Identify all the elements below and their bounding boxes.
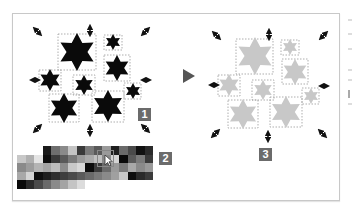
- color-swatch[interactable]: [43, 146, 52, 155]
- color-swatch[interactable]: [26, 180, 35, 189]
- color-swatch[interactable]: [68, 155, 77, 164]
- color-swatch[interactable]: [34, 172, 43, 181]
- color-swatch[interactable]: [136, 155, 145, 164]
- color-swatch[interactable]: [60, 163, 69, 172]
- color-swatch[interactable]: [51, 180, 60, 189]
- color-swatch-grid[interactable]: [17, 146, 153, 189]
- play-arrow-icon: [183, 69, 195, 83]
- color-swatch[interactable]: [128, 146, 137, 155]
- mouse-cursor-icon: [104, 154, 114, 167]
- color-swatch[interactable]: [77, 180, 86, 189]
- color-swatch[interactable]: [34, 155, 43, 164]
- empty-swatch-slot: [85, 180, 94, 189]
- color-swatch[interactable]: [111, 172, 120, 181]
- color-swatch[interactable]: [94, 172, 103, 181]
- color-swatch[interactable]: [26, 172, 35, 181]
- color-swatch[interactable]: [128, 172, 137, 181]
- color-swatch[interactable]: [145, 163, 154, 172]
- color-swatch[interactable]: [102, 172, 111, 181]
- gray-star-group[interactable]: [211, 31, 327, 140]
- empty-swatch-slot: [102, 180, 111, 189]
- empty-swatch-slot: [145, 180, 154, 189]
- empty-swatch-slot: [136, 180, 145, 189]
- color-swatch[interactable]: [85, 146, 94, 155]
- empty-swatch-slot: [111, 180, 120, 189]
- color-swatch[interactable]: [68, 146, 77, 155]
- color-swatch[interactable]: [77, 163, 86, 172]
- color-swatch[interactable]: [136, 163, 145, 172]
- empty-swatch-slot: [17, 146, 26, 155]
- color-swatch[interactable]: [17, 163, 26, 172]
- color-swatch[interactable]: [136, 172, 145, 181]
- step-badge-1: 1: [138, 108, 151, 121]
- color-swatch[interactable]: [68, 172, 77, 181]
- color-swatch[interactable]: [51, 155, 60, 164]
- color-swatch[interactable]: [119, 146, 128, 155]
- step-badge-2: 2: [159, 152, 172, 165]
- color-swatch[interactable]: [77, 155, 86, 164]
- color-swatch[interactable]: [128, 155, 137, 164]
- color-swatch[interactable]: [77, 172, 86, 181]
- color-swatch[interactable]: [145, 172, 154, 181]
- color-swatch[interactable]: [51, 172, 60, 181]
- color-swatch[interactable]: [60, 180, 69, 189]
- empty-swatch-slot: [94, 180, 103, 189]
- step-badge-3: 3: [259, 148, 272, 161]
- empty-swatch-slot: [128, 180, 137, 189]
- color-swatch[interactable]: [51, 146, 60, 155]
- color-swatch[interactable]: [26, 155, 35, 164]
- color-swatch[interactable]: [128, 163, 137, 172]
- color-swatch[interactable]: [119, 172, 128, 181]
- color-swatch[interactable]: [43, 155, 52, 164]
- color-swatch[interactable]: [43, 172, 52, 181]
- star-shape: [60, 33, 93, 71]
- color-swatch[interactable]: [17, 180, 26, 189]
- color-swatch[interactable]: [68, 163, 77, 172]
- color-swatch[interactable]: [34, 163, 43, 172]
- color-swatch[interactable]: [77, 146, 86, 155]
- color-swatch[interactable]: [85, 155, 94, 164]
- empty-swatch-slot: [34, 146, 43, 155]
- color-swatch[interactable]: [34, 180, 43, 189]
- color-swatch[interactable]: [26, 163, 35, 172]
- margin-ticks: [348, 20, 352, 104]
- color-swatch[interactable]: [43, 163, 52, 172]
- color-swatch[interactable]: [119, 163, 128, 172]
- color-swatch[interactable]: [17, 172, 26, 181]
- color-swatch[interactable]: [68, 180, 77, 189]
- color-swatch[interactable]: [145, 146, 154, 155]
- black-star-group[interactable]: [32, 27, 149, 134]
- color-swatch[interactable]: [60, 146, 69, 155]
- color-swatch[interactable]: [60, 155, 69, 164]
- color-swatch[interactable]: [119, 155, 128, 164]
- color-swatch[interactable]: [51, 163, 60, 172]
- color-swatch[interactable]: [85, 163, 94, 172]
- color-swatch[interactable]: [60, 172, 69, 181]
- empty-swatch-slot: [119, 180, 128, 189]
- empty-swatch-slot: [26, 146, 35, 155]
- color-swatch[interactable]: [43, 180, 52, 189]
- color-swatch[interactable]: [145, 155, 154, 164]
- color-swatch[interactable]: [17, 155, 26, 164]
- color-swatch[interactable]: [136, 146, 145, 155]
- color-swatch[interactable]: [85, 172, 94, 181]
